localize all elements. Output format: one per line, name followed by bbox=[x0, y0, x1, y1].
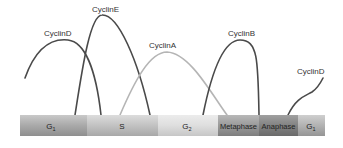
label-cyclin-e: CyclinE bbox=[92, 5, 119, 14]
curve-cyclin-b bbox=[203, 40, 259, 115]
label-cyclin-d-next: CyclinD bbox=[297, 67, 325, 76]
phase-label-anaphase: Anaphase bbox=[262, 122, 296, 131]
label-cyclin-a: CyclinA bbox=[149, 41, 177, 50]
phase-label-metaphase: Metaphase bbox=[220, 122, 257, 131]
label-cyclin-d: CyclinD bbox=[44, 29, 72, 38]
phase-label-s: S bbox=[119, 122, 124, 131]
cyclin-diagram: CyclinD CyclinE CyclinA CyclinB CyclinD … bbox=[0, 0, 343, 148]
phase-bar: G1 S G2 Metaphase Anaphase G1 bbox=[20, 115, 325, 136]
label-cyclin-b: CyclinB bbox=[228, 29, 255, 38]
curve-cyclin-e bbox=[75, 15, 150, 115]
curve-cyclin-d-next bbox=[288, 78, 323, 115]
curve-cyclin-d bbox=[25, 40, 101, 115]
